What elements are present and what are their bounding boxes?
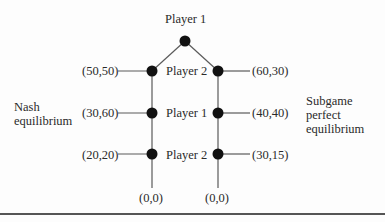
left-terminal-payoff: (0,0) (139, 191, 163, 205)
right-node-2 (213, 108, 224, 119)
bottom-rule (0, 213, 385, 215)
right-node-1 (213, 66, 224, 77)
nash-annotation: Nash equilibrium (14, 100, 72, 128)
right-node-3 (213, 149, 224, 160)
player-label-row3: Player 2 (166, 148, 207, 162)
spe-annotation: Subgame perfect equilibrium (306, 94, 364, 136)
right-payoff-2: (40,40) (252, 106, 288, 120)
left-payoff-3: (20,20) (82, 148, 118, 162)
left-payoff-1: (50,50) (82, 64, 118, 78)
left-node-2 (147, 108, 158, 119)
player-label-row1: Player 2 (166, 64, 207, 78)
right-payoff-1: (60,30) (252, 64, 288, 78)
right-terminal-payoff: (0,0) (205, 191, 229, 205)
left-payoff-2: (30,60) (82, 106, 118, 120)
right-payoff-3: (30,15) (252, 148, 288, 162)
left-node-3 (147, 149, 158, 160)
root-player-label: Player 1 (165, 12, 206, 26)
player-label-row2: Player 1 (166, 106, 207, 120)
left-node-1 (147, 66, 158, 77)
root-node (180, 36, 191, 47)
